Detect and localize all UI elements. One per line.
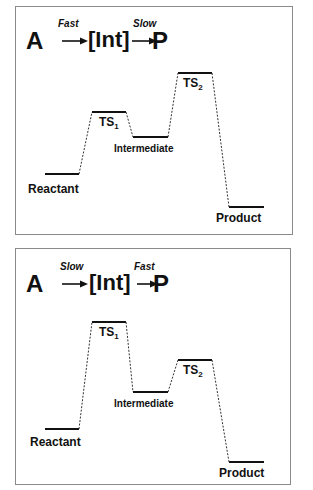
label-ts2: TS2 bbox=[183, 76, 203, 92]
scheme-reactant: A bbox=[26, 270, 43, 298]
connector-ts1-int bbox=[126, 322, 133, 392]
connector-ts1-int bbox=[126, 112, 133, 137]
label-product: Product bbox=[219, 466, 264, 480]
connector-int-ts2 bbox=[168, 360, 178, 392]
label-intermediate: Intermediate bbox=[114, 398, 173, 409]
label-reactant: Reactant bbox=[28, 182, 79, 196]
connector-int-ts2 bbox=[168, 73, 178, 137]
energy-diagram-slow-fast: A Slow [Int] Fast P Reactant TS1 Interme… bbox=[15, 248, 291, 485]
step1-rate: Fast bbox=[58, 18, 79, 29]
scheme-intermediate: [Int] bbox=[89, 270, 131, 296]
arrow-step1-icon bbox=[80, 38, 88, 45]
scheme-product: P bbox=[152, 27, 168, 55]
step1-rate: Slow bbox=[60, 261, 83, 272]
energy-diagram-fast-slow: A Fast [Int] Slow P Reactant TS1 Interme… bbox=[15, 6, 293, 235]
connector-ts2-product bbox=[212, 360, 229, 462]
scheme-reactant: A bbox=[26, 27, 43, 55]
scheme-product: P bbox=[153, 270, 169, 298]
connector-reactant-ts1 bbox=[79, 322, 92, 429]
label-ts1: TS1 bbox=[99, 115, 119, 131]
scheme-intermediate: [Int] bbox=[88, 27, 130, 53]
step2-rate: Fast bbox=[134, 261, 155, 272]
label-intermediate: Intermediate bbox=[114, 143, 173, 154]
connector-reactant-ts1 bbox=[79, 112, 92, 174]
label-product: Product bbox=[216, 211, 261, 225]
label-reactant: Reactant bbox=[30, 435, 81, 449]
connector-ts2-product bbox=[212, 73, 229, 207]
arrow-step1-icon bbox=[80, 281, 88, 288]
label-ts1: TS1 bbox=[99, 325, 119, 341]
label-ts2: TS2 bbox=[183, 363, 203, 379]
